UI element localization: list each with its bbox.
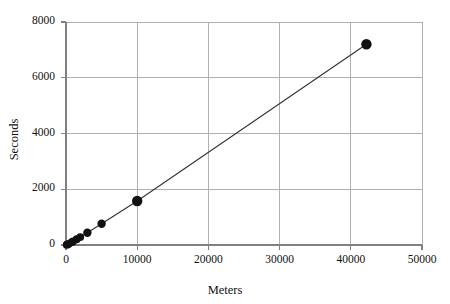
y-tick-label: 6000 <box>0 70 55 82</box>
data-point-marker <box>83 229 91 237</box>
gridlines-group <box>66 22 422 245</box>
series-line <box>67 44 367 244</box>
x-tick-label: 40000 <box>311 253 391 265</box>
tick-marks-group <box>61 22 422 250</box>
x-tick-label: 30000 <box>240 253 320 265</box>
data-point-marker <box>132 196 142 206</box>
y-tick-label: 2000 <box>0 181 55 193</box>
y-tick-label: 8000 <box>0 14 55 26</box>
x-axis-title: Meters <box>0 283 450 298</box>
chart-container: 01000020000300004000050000 0200040006000… <box>0 0 450 304</box>
x-tick-label: 10000 <box>97 253 177 265</box>
data-point-marker <box>97 220 105 228</box>
x-tick-label: 0 <box>26 253 106 265</box>
y-axis-title: Seconds <box>7 100 22 180</box>
series-markers-group <box>63 39 372 249</box>
data-point-marker <box>76 233 84 241</box>
data-point-marker <box>361 39 371 49</box>
x-tick-label: 50000 <box>382 253 450 265</box>
series-line-group <box>67 44 367 244</box>
y-tick-label: 0 <box>0 237 55 249</box>
x-tick-label: 20000 <box>168 253 248 265</box>
